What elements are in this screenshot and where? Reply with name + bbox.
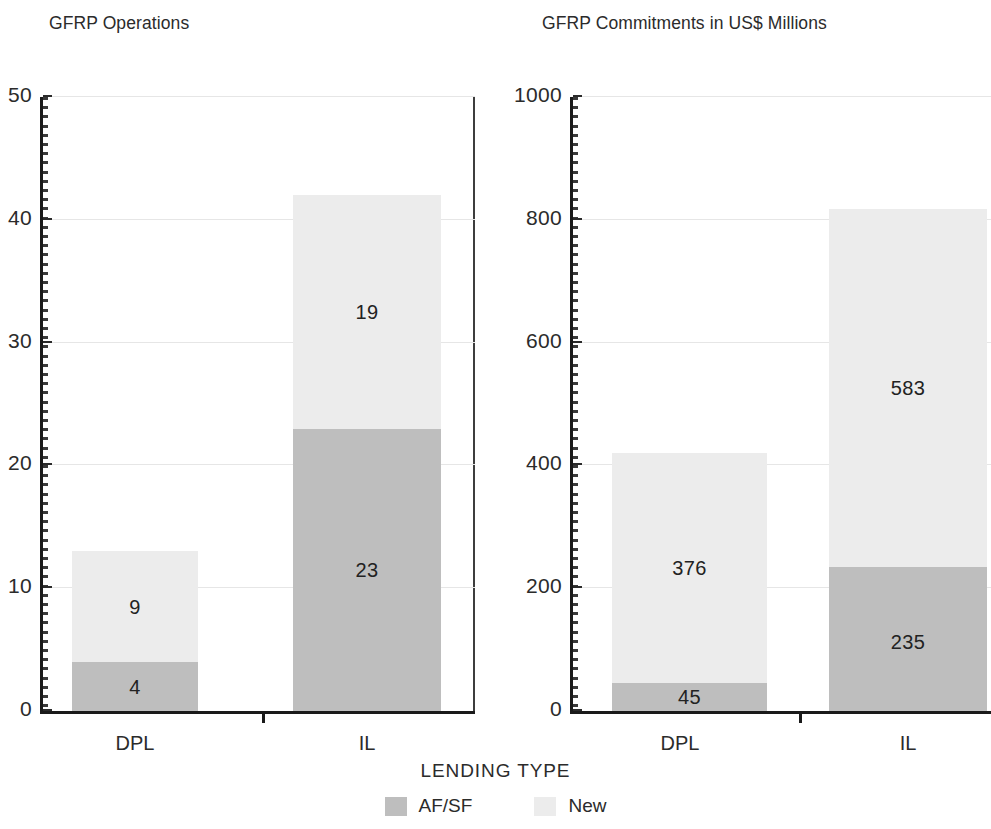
bar-label-new-right-dpl: 376 bbox=[612, 556, 767, 579]
legend-swatch-af-sf-icon bbox=[385, 797, 407, 816]
y-tick-label-right-200: 200 bbox=[526, 574, 562, 598]
x-axis-line-left bbox=[40, 711, 475, 714]
y-tick-left-0: 0 bbox=[43, 709, 52, 711]
y-tick-left-40: 40 bbox=[43, 218, 52, 220]
bar-right-il[interactable]: 583 235 bbox=[829, 209, 987, 711]
x-axis-line-right bbox=[570, 711, 991, 714]
bar-segment-new-left-il[interactable]: 19 bbox=[293, 195, 441, 428]
bar-segment-new-left-dpl[interactable]: 9 bbox=[72, 551, 198, 662]
y-tick-label-left-20: 20 bbox=[8, 451, 32, 475]
panel-title-operations: GFRP Operations bbox=[49, 13, 189, 34]
legend-items: AF/SF New bbox=[0, 795, 991, 817]
y-tick-label-left-0: 0 bbox=[20, 697, 32, 721]
y-tick-right-0: 0 bbox=[573, 709, 582, 711]
y-tick-label-left-10: 10 bbox=[8, 574, 32, 598]
bar-label-new-left-dpl: 9 bbox=[72, 595, 198, 618]
legend-label-new: New bbox=[568, 795, 606, 817]
bar-segment-af-right-dpl[interactable]: 45 bbox=[612, 683, 767, 711]
x-tick-separator-left bbox=[262, 711, 265, 723]
gridline-left-50 bbox=[43, 96, 475, 97]
plot-area-operations: 50 40 30 20 10 0 bbox=[40, 97, 475, 711]
bar-label-af-right-dpl: 45 bbox=[612, 686, 767, 709]
bar-right-dpl[interactable]: 376 45 bbox=[612, 453, 767, 711]
x-tick-label-left-dpl: DPL bbox=[116, 732, 155, 755]
y-tick-label-right-800: 800 bbox=[526, 206, 562, 230]
y-tick-left-10: 10 bbox=[43, 586, 52, 588]
y-tick-label-right-0: 0 bbox=[550, 697, 562, 721]
legend-item-af-sf[interactable]: AF/SF bbox=[385, 795, 473, 817]
x-tick-label-right-il: IL bbox=[900, 732, 917, 755]
y-tick-label-right-1000: 1000 bbox=[514, 83, 562, 107]
bar-left-il[interactable]: 19 23 bbox=[293, 195, 441, 711]
x-tick-label-left-il: IL bbox=[359, 732, 376, 755]
y-tick-right-800: 800 bbox=[573, 218, 582, 220]
panel-gfrp-operations: GFRP Operations 50 40 30 20 bbox=[0, 0, 500, 760]
bar-segment-new-right-il[interactable]: 583 bbox=[829, 209, 987, 567]
y-tick-left-50: 50 bbox=[43, 95, 52, 97]
y-tick-right-600: 600 bbox=[573, 341, 582, 343]
bar-label-new-left-il: 19 bbox=[293, 300, 441, 323]
bar-label-af-left-il: 23 bbox=[293, 558, 441, 581]
bar-left-dpl[interactable]: 9 4 bbox=[72, 551, 198, 711]
plot-right-border-left bbox=[473, 97, 475, 711]
y-tick-left-20: 20 bbox=[43, 463, 52, 465]
bar-segment-af-right-il[interactable]: 235 bbox=[829, 567, 987, 711]
y-tick-label-left-40: 40 bbox=[8, 206, 32, 230]
plot-area-commitments: 1000 800 600 400 200 0 bbox=[570, 97, 991, 711]
y-tick-right-1000: 1000 bbox=[573, 95, 582, 97]
y-axis-minor-ticks-left bbox=[43, 97, 48, 711]
y-tick-right-200: 200 bbox=[573, 586, 582, 588]
bar-segment-af-left-dpl[interactable]: 4 bbox=[72, 662, 198, 711]
legend-title: LENDING TYPE bbox=[0, 760, 991, 782]
panel-title-commitments: GFRP Commitments in US$ Millions bbox=[542, 13, 827, 34]
x-tick-label-right-dpl: DPL bbox=[661, 732, 700, 755]
legend: LENDING TYPE AF/SF New bbox=[0, 760, 991, 829]
bar-segment-new-right-dpl[interactable]: 376 bbox=[612, 453, 767, 684]
bar-segment-af-left-il[interactable]: 23 bbox=[293, 429, 441, 711]
y-tick-label-left-50: 50 bbox=[8, 83, 32, 107]
chart-figure: GFRP Operations 50 40 30 20 bbox=[0, 0, 991, 829]
y-tick-label-left-30: 30 bbox=[8, 329, 32, 353]
y-tick-left-30: 30 bbox=[43, 341, 52, 343]
legend-swatch-new-icon bbox=[534, 797, 556, 816]
y-tick-right-400: 400 bbox=[573, 463, 582, 465]
y-axis-minor-ticks-right bbox=[573, 97, 578, 711]
legend-item-new[interactable]: New bbox=[534, 795, 606, 817]
legend-label-af-sf: AF/SF bbox=[419, 795, 473, 817]
panel-gfrp-commitments: GFRP Commitments in US$ Millions 1000 80… bbox=[500, 0, 991, 760]
y-tick-label-right-600: 600 bbox=[526, 329, 562, 353]
x-tick-separator-right bbox=[799, 711, 802, 723]
bar-label-af-right-il: 235 bbox=[829, 630, 987, 653]
bar-label-af-left-dpl: 4 bbox=[72, 676, 198, 699]
gridline-right-1000 bbox=[573, 96, 991, 97]
bar-label-new-right-il: 583 bbox=[829, 376, 987, 399]
y-tick-label-right-400: 400 bbox=[526, 451, 562, 475]
